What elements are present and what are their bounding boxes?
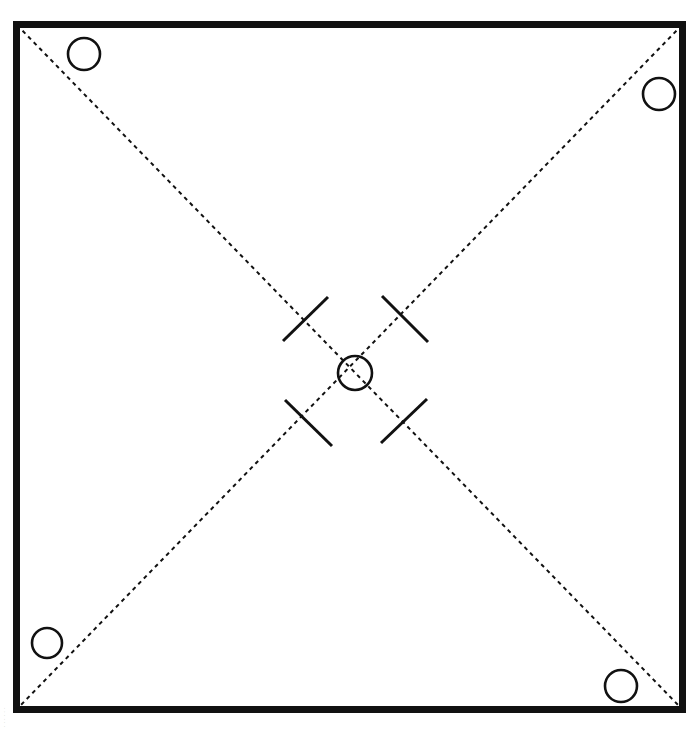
figure-root: · · · · · · [0,0,699,731]
technical-drawing-canvas [0,0,699,731]
paper-background [0,0,699,731]
scan-margin-imprint: · · · · · · [1,707,11,727]
